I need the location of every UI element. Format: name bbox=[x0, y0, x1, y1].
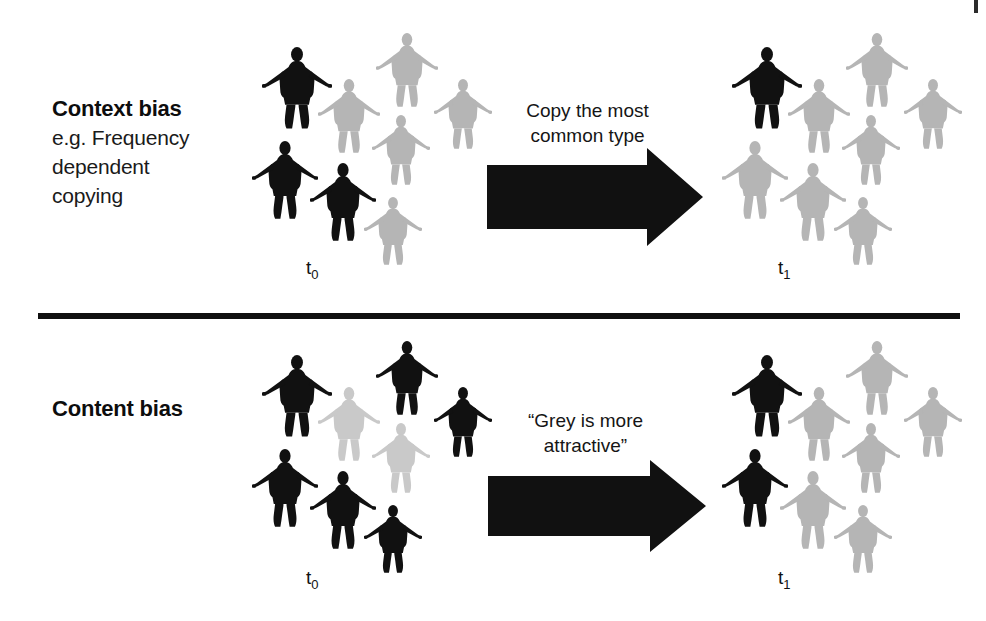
context-arrow-icon bbox=[485, 148, 705, 246]
content-before-figure-black bbox=[376, 340, 438, 416]
content-time-label-before: t0 bbox=[306, 568, 319, 594]
context-after-figure-grey bbox=[788, 78, 850, 154]
content-time-label-after: t1 bbox=[778, 568, 791, 594]
content-population-before bbox=[248, 330, 508, 600]
context-time-subscript-before: 0 bbox=[311, 267, 318, 282]
content-after-figure-grey bbox=[842, 422, 900, 494]
context-population-before bbox=[248, 22, 508, 292]
context-after-figure-grey bbox=[904, 78, 962, 150]
panel-context-bias: Context bias e.g. Frequency dependent co… bbox=[0, 0, 986, 315]
content-before-figure-black bbox=[252, 448, 318, 528]
content-arrow-caption: “Grey is more attractive” bbox=[478, 408, 693, 458]
content-bias-label-block: Content bias bbox=[52, 395, 242, 423]
corner-mark bbox=[974, 0, 978, 13]
content-before-figure-pale bbox=[318, 386, 380, 462]
context-arrow-caption: Copy the most common type bbox=[480, 98, 695, 148]
context-after-figure-grey bbox=[834, 196, 892, 266]
content-after-figure-grey bbox=[834, 504, 892, 574]
content-after-figure-grey bbox=[904, 386, 962, 458]
content-before-figure-pale bbox=[372, 422, 430, 494]
context-before-figure-black bbox=[252, 140, 318, 220]
context-population-after bbox=[718, 22, 978, 292]
context-time-subscript-after: 1 bbox=[783, 267, 790, 282]
context-after-figure-grey bbox=[846, 32, 908, 108]
context-bias-title: Context bias bbox=[52, 95, 242, 123]
context-bias-subtitle-line-1: e.g. Frequency bbox=[52, 123, 242, 152]
context-bias-subtitle-line-3: copying bbox=[52, 181, 242, 210]
context-time-label-after: t1 bbox=[778, 258, 791, 284]
content-after-figure-grey bbox=[846, 340, 908, 416]
content-before-figure-black bbox=[364, 504, 422, 574]
content-time-subscript-before: 0 bbox=[311, 577, 318, 592]
content-arrow-caption-line-1: “Grey is more bbox=[478, 408, 693, 433]
content-after-figure-grey bbox=[788, 386, 850, 462]
content-bias-title: Content bias bbox=[52, 395, 242, 423]
context-before-figure-grey bbox=[364, 196, 422, 266]
content-arrow-icon bbox=[486, 460, 708, 552]
context-time-label-before: t0 bbox=[306, 258, 319, 284]
context-before-figure-grey bbox=[376, 32, 438, 108]
content-population-after bbox=[718, 330, 978, 600]
panel-content-bias: Content bias t0 “Grey is more attractive… bbox=[0, 320, 986, 621]
context-after-figure-grey bbox=[842, 114, 900, 186]
context-bias-subtitle-line-2: dependent bbox=[52, 152, 242, 181]
context-bias-label-block: Context bias e.g. Frequency dependent co… bbox=[52, 95, 242, 210]
content-time-subscript-after: 1 bbox=[783, 577, 790, 592]
panel-divider bbox=[38, 313, 960, 319]
content-after-figure-black bbox=[722, 448, 788, 528]
content-arrow-caption-line-2: attractive” bbox=[478, 433, 693, 458]
context-arrow-caption-line-2: common type bbox=[480, 123, 695, 148]
context-before-figure-grey bbox=[318, 78, 380, 154]
context-after-figure-grey bbox=[722, 140, 788, 220]
context-arrow-caption-line-1: Copy the most bbox=[480, 98, 695, 123]
context-before-figure-grey bbox=[372, 114, 430, 186]
